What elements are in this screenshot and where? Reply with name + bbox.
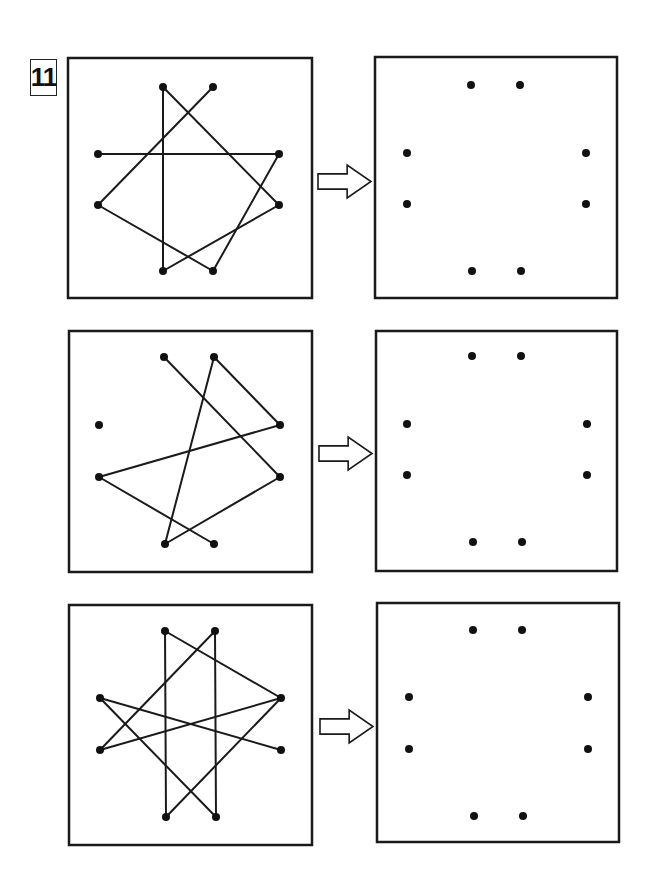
source-panel-2: [69, 331, 312, 572]
target-frame[interactable]: [377, 603, 619, 842]
dot-BL: [161, 540, 169, 548]
dot-LT: [96, 694, 104, 702]
dot-TL: [160, 353, 168, 361]
right-arrow-icon: [318, 165, 371, 198]
dot-BL: [159, 267, 167, 275]
target-dot-LT[interactable]: [403, 149, 411, 157]
target-panel-2[interactable]: [376, 331, 617, 571]
dot-LB: [94, 201, 102, 209]
target-dot-BR[interactable]: [518, 538, 526, 546]
target-dot-BR[interactable]: [519, 812, 527, 820]
target-dot-TL[interactable]: [467, 81, 475, 89]
target-dot-RB[interactable]: [583, 471, 591, 479]
target-dot-LT[interactable]: [403, 420, 411, 428]
target-dot-LB[interactable]: [405, 745, 413, 753]
target-dot-BR[interactable]: [517, 267, 525, 275]
target-dot-BL[interactable]: [468, 267, 476, 275]
connecting-line: [165, 631, 166, 817]
dot-RB: [277, 746, 285, 754]
target-panel-1[interactable]: [375, 57, 617, 298]
source-panel-3: [69, 605, 312, 845]
target-dot-RT[interactable]: [583, 420, 591, 428]
right-arrow-icon: [320, 710, 373, 743]
dot-RB: [276, 473, 284, 481]
dot-BL: [162, 813, 170, 821]
source-panel-1: [68, 58, 312, 298]
dot-RB: [275, 201, 283, 209]
target-dot-TR[interactable]: [517, 352, 525, 360]
target-frame[interactable]: [376, 331, 617, 571]
target-panel-3[interactable]: [377, 603, 619, 842]
dot-RT: [276, 421, 284, 429]
right-arrow-icon: [319, 437, 372, 470]
dot-TR: [211, 627, 219, 635]
target-dot-RB[interactable]: [582, 200, 590, 208]
dot-BR: [210, 540, 218, 548]
dot-LT: [94, 150, 102, 158]
target-dot-LB[interactable]: [403, 471, 411, 479]
dot-LT: [95, 421, 103, 429]
target-dot-TR[interactable]: [516, 81, 524, 89]
dot-pattern-worksheet: [0, 0, 654, 895]
target-dot-BL[interactable]: [470, 812, 478, 820]
dot-LB: [96, 746, 104, 754]
dot-RT: [275, 150, 283, 158]
target-dot-RB[interactable]: [584, 745, 592, 753]
dot-BR: [212, 813, 220, 821]
connecting-line: [215, 631, 216, 817]
dot-TR: [209, 83, 217, 91]
target-dot-RT[interactable]: [582, 149, 590, 157]
target-dot-TR[interactable]: [518, 626, 526, 634]
target-dot-TL[interactable]: [469, 626, 477, 634]
dot-TL: [159, 83, 167, 91]
dot-LB: [95, 473, 103, 481]
target-frame[interactable]: [375, 57, 617, 298]
target-dot-RT[interactable]: [584, 693, 592, 701]
dot-TL: [161, 627, 169, 635]
target-dot-LT[interactable]: [405, 693, 413, 701]
target-dot-TL[interactable]: [468, 352, 476, 360]
dot-RT: [277, 694, 285, 702]
dot-TR: [210, 353, 218, 361]
target-dot-LB[interactable]: [403, 200, 411, 208]
source-frame: [68, 58, 312, 298]
dot-BR: [209, 267, 217, 275]
target-dot-BL[interactable]: [469, 538, 477, 546]
